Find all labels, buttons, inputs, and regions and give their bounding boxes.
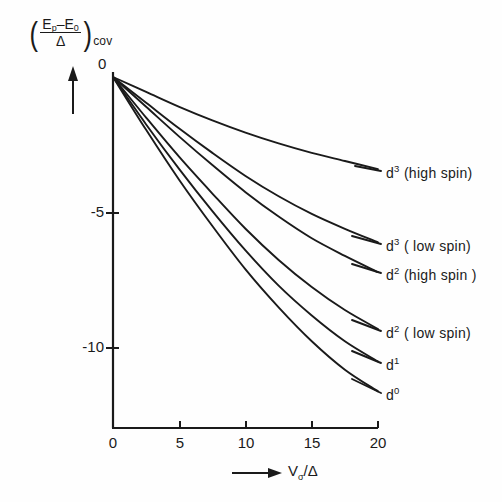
curve-d1 [113,77,378,362]
curve-d3-high-spin- [113,77,378,169]
curve-d2-high-spin- [113,77,378,272]
curve-label-d1: d1 [386,355,400,373]
figure-canvas: ( Ep–E0 Δ ) cov 0 -5 -10 0 5 10 15 20 Vσ… [0,0,502,502]
curve-label-d0: d0 [386,385,400,403]
curve-group [113,77,378,391]
curve-d2-low-spin- [113,77,378,329]
curve-label-d3-high-spin: d3 (high spin) [386,163,473,181]
curve-label-d3-low-spin: d3 ( low spin) [386,236,471,254]
curve-label-d2-high-spin: d2 (high spin ) [386,265,477,283]
curve-label-d2-low-spin: d2 ( low spin) [386,323,471,341]
leader-line-d0 [352,379,381,393]
leader-line-d2-high-spin [352,264,381,273]
leader-line-d1 [352,351,381,363]
leader-line-group [352,166,381,393]
